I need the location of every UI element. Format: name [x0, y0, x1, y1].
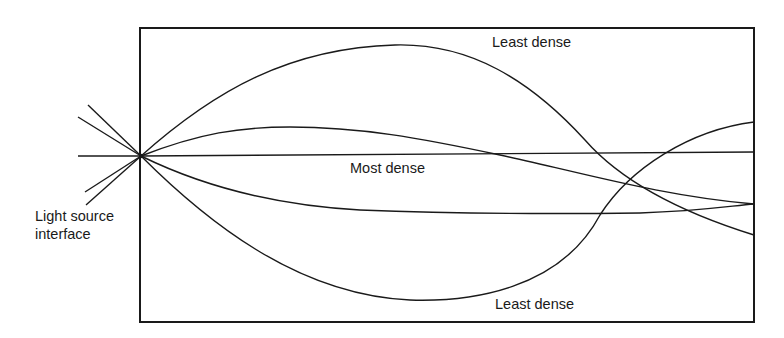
- incoming-ray-2: [78, 117, 141, 156]
- label-most-dense: Most dense: [350, 160, 425, 177]
- fiber-core-box: [140, 28, 754, 322]
- lower-inner-ray: [141, 156, 754, 214]
- upper-outer-ray: [141, 45, 754, 235]
- diagram-canvas: Least dense Most dense Least dense Light…: [0, 0, 784, 338]
- incoming-ray-5: [86, 156, 141, 205]
- lower-outer-ray: [141, 122, 754, 300]
- label-interface: interface: [35, 226, 91, 243]
- label-light-source: Light source: [35, 208, 114, 225]
- incoming-rays: [78, 105, 141, 205]
- label-least-dense-top: Least dense: [492, 34, 571, 51]
- incoming-ray-4: [85, 156, 141, 192]
- upper-inner-ray: [141, 127, 754, 204]
- label-least-dense-bottom: Least dense: [495, 296, 574, 313]
- incoming-ray-1: [88, 105, 141, 156]
- internal-rays: [141, 45, 754, 300]
